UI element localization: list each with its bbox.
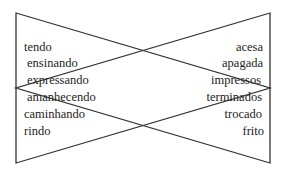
left-word: tendo bbox=[24, 40, 52, 54]
right-word: impressos bbox=[211, 73, 261, 87]
left-word: amanhecendo bbox=[27, 90, 96, 104]
left-triangle bbox=[16, 13, 270, 163]
right-word: trocado bbox=[225, 107, 262, 121]
right-triangle bbox=[16, 13, 270, 163]
bowtie-diagram: tendo ensinando expressando amanhecendo … bbox=[0, 0, 285, 172]
left-word: ensinando bbox=[27, 56, 78, 70]
right-word: acesa bbox=[236, 40, 263, 54]
right-word: terminados bbox=[206, 90, 262, 104]
left-word: caminhando bbox=[24, 107, 85, 121]
left-word: rindo bbox=[24, 124, 50, 138]
right-word: apagada bbox=[222, 56, 263, 70]
right-word: frito bbox=[242, 124, 264, 138]
left-word: expressando bbox=[27, 73, 89, 87]
